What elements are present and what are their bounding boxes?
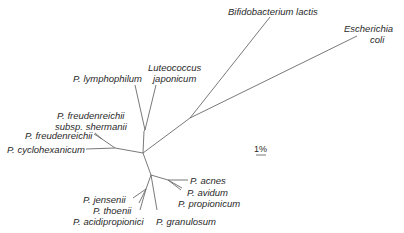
branch-lymphophilum — [135, 85, 145, 130]
branch-lower-to-acidi-node — [146, 175, 151, 189]
label-bifidobacterium: Bifidobacterium lactis — [228, 6, 318, 17]
label-luteococcus-species: japonicum — [153, 73, 196, 84]
scale-bar-label: 1% — [254, 144, 267, 154]
branch-luteococcus — [145, 85, 156, 130]
branch-upper-node-join — [144, 130, 145, 131]
branch-escherichia — [190, 36, 357, 118]
branch-lower-to-acnes-node — [151, 175, 168, 180]
label-escherichia-species: coli — [370, 34, 384, 45]
branch-propionicum — [168, 180, 181, 190]
branch-root-to-lower-node — [143, 153, 151, 175]
label-acnes: P. acnes — [190, 175, 226, 186]
branch-root-to-left-node — [115, 148, 143, 153]
branch-freudenreichii-node — [102, 139, 115, 148]
label-escherichia-genus: Escherichia — [344, 23, 393, 34]
branch-cyclohexanicum — [86, 148, 115, 149]
label-freudenreichii: P. freudenreichii — [25, 130, 92, 141]
branch-shermanii — [95, 133, 102, 139]
label-cyclohexanicum: P. cyclohexanicum — [7, 144, 85, 155]
branch-bifidobacterium — [190, 17, 270, 118]
branch-root-to-upper-node — [143, 131, 144, 153]
label-propionicum: P. propionicum — [178, 198, 240, 209]
label-granulosum: P. granulosum — [156, 216, 216, 227]
label-shermanii-genus: P. freudenreichii — [57, 110, 124, 121]
label-thoenii: P. thoenii — [93, 205, 131, 216]
label-avidum: P. avidum — [187, 187, 228, 198]
label-luteococcus-genus: Luteococcus — [148, 62, 201, 73]
branch-granulosum — [151, 175, 157, 210]
label-jensenii: P. jensenii — [83, 194, 126, 205]
branch-root-to-outgroup — [143, 118, 190, 153]
label-acidipropionici: P. acidipropionici — [73, 216, 144, 227]
label-lymphophilum: P. lymphophilum — [73, 73, 142, 84]
